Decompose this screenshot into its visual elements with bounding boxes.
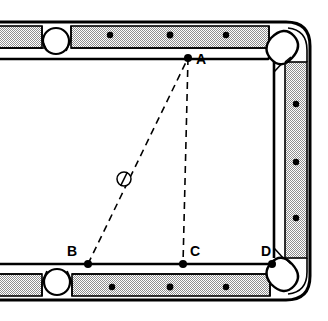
point-marker <box>184 54 192 62</box>
table-canvas: A B C D <box>0 0 328 321</box>
rail-marker <box>293 215 299 221</box>
point-marker <box>179 260 187 268</box>
point-d-label: D <box>261 243 271 259</box>
rail-marker <box>293 101 299 107</box>
rail-marker <box>223 32 229 38</box>
rail-marker <box>223 284 229 290</box>
rail-marker <box>107 32 113 38</box>
point-b-label: B <box>67 243 77 259</box>
cue-ball <box>117 172 131 186</box>
point-c-label: C <box>190 243 200 259</box>
billiard-table-diagram: A B C D <box>0 0 328 321</box>
point-marker <box>268 260 276 268</box>
rail-marker <box>293 159 299 165</box>
rail-marker <box>109 284 115 290</box>
rail-marker <box>167 284 174 291</box>
point-marker <box>84 260 92 268</box>
rail-marker <box>167 32 174 39</box>
point-a-label: A <box>196 51 206 67</box>
